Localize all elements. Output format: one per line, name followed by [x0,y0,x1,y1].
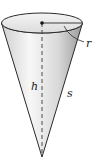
height-label: h [31,80,38,93]
cone-diagram: r h s [0,0,96,166]
radius-label: r [86,37,92,50]
center-point [40,21,44,25]
slant-height-label: s [67,87,73,100]
